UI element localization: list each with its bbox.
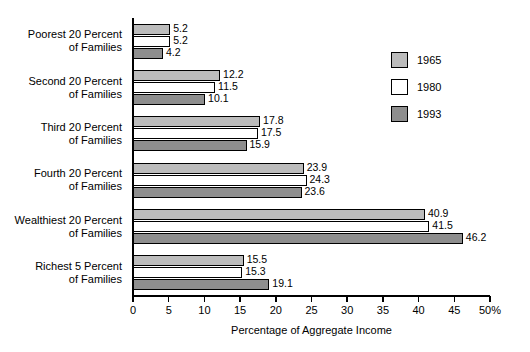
x-tick [382, 296, 384, 302]
bar-row: 46.2 [133, 233, 490, 244]
x-tick [132, 296, 134, 302]
category-label: Wealthiest 20 Percentof Families [0, 214, 122, 240]
bar-1980-4[interactable] [133, 175, 307, 186]
category-label-line: Richest 5 Percent [0, 260, 122, 273]
bar-group: 17.817.515.9 [133, 116, 490, 152]
x-tick-label: 10 [198, 304, 210, 317]
bar-group: 23.924.323.6 [133, 163, 490, 199]
bar-1993-3[interactable] [133, 140, 247, 151]
x-tick-label: 40 [412, 304, 424, 317]
bar-row: 5.2 [133, 36, 490, 47]
category-label-line: of Families [0, 273, 122, 286]
x-tick-label: 50% [479, 304, 501, 317]
bar-row: 41.5 [133, 221, 490, 232]
bar-1980-6[interactable] [133, 267, 242, 278]
category-label-line: Wealthiest 20 Percent [0, 214, 122, 227]
x-tick [346, 296, 348, 302]
legend-label: 1993 [417, 107, 441, 121]
bar-value-label: 23.6 [305, 185, 325, 198]
category-label-group: Poorest 20 Percentof FamiliesSecond 20 P… [0, 18, 128, 296]
x-tick-label: 35 [377, 304, 389, 317]
category-label-line: of Families [0, 227, 122, 240]
category-label-line: Fourth 20 Percent [0, 167, 122, 180]
category-label-line: of Families [0, 180, 122, 193]
category-label-line: Poorest 20 Percent [0, 28, 122, 41]
bar-value-label: 15.3 [245, 265, 265, 278]
bar-1993-4[interactable] [133, 187, 302, 198]
category-label: Poorest 20 Percentof Families [0, 28, 122, 54]
bar-1993-5[interactable] [133, 233, 463, 244]
x-tick-label: 20 [270, 304, 282, 317]
x-tick [239, 296, 241, 302]
bar-value-label: 4.2 [166, 46, 181, 59]
bar-value-label: 19.1 [272, 277, 292, 290]
bar-1965-5[interactable] [133, 209, 425, 220]
bar-row: 17.5 [133, 128, 490, 139]
bar-row: 23.6 [133, 187, 490, 198]
bar-value-label: 10.1 [208, 92, 228, 105]
x-tick [418, 296, 420, 302]
bar-1965-6[interactable] [133, 255, 244, 266]
bar-group: 40.941.546.2 [133, 209, 490, 245]
x-tick [489, 296, 491, 302]
bar-value-label: 41.5 [432, 219, 452, 232]
bar-chart: Poorest 20 Percentof FamiliesSecond 20 P… [0, 0, 530, 352]
category-label-line: Third 20 Percent [0, 121, 122, 134]
bar-1965-3[interactable] [133, 116, 260, 127]
category-label-line: of Families [0, 88, 122, 101]
bar-group: 15.515.319.1 [133, 255, 490, 291]
bar-1980-5[interactable] [133, 221, 429, 232]
bar-1993-1[interactable] [133, 48, 163, 59]
x-axis-title: Percentage of Aggregate Income [133, 324, 490, 336]
x-tick [311, 296, 313, 302]
bar-1993-6[interactable] [133, 279, 269, 290]
bar-value-label: 15.9 [250, 138, 270, 151]
legend-swatch-icon [391, 52, 408, 68]
x-tick [168, 296, 170, 302]
x-tick [454, 296, 456, 302]
bar-1980-3[interactable] [133, 128, 258, 139]
x-tick-label: 45 [448, 304, 460, 317]
category-label-line: of Families [0, 134, 122, 147]
bar-1965-1[interactable] [133, 24, 170, 35]
bar-1980-1[interactable] [133, 36, 170, 47]
bar-row: 10.1 [133, 94, 490, 105]
bar-value-label: 46.2 [466, 231, 486, 244]
legend-swatch-icon [391, 79, 408, 95]
bar-1980-2[interactable] [133, 82, 215, 93]
category-label: Richest 5 Percentof Families [0, 260, 122, 286]
bar-row: 15.9 [133, 140, 490, 151]
bar-1965-4[interactable] [133, 163, 304, 174]
bar-row: 19.1 [133, 279, 490, 290]
category-label-line: Second 20 Percent [0, 75, 122, 88]
category-label: Fourth 20 Percentof Families [0, 167, 122, 193]
legend-label: 1965 [417, 53, 441, 67]
legend-label: 1980 [417, 80, 441, 94]
x-tick [204, 296, 206, 302]
category-label: Second 20 Percentof Families [0, 75, 122, 101]
x-tick-label: 15 [234, 304, 246, 317]
x-tick-label: 30 [341, 304, 353, 317]
bar-row: 15.5 [133, 255, 490, 266]
bar-1993-2[interactable] [133, 94, 205, 105]
category-label: Third 20 Percentof Families [0, 121, 122, 147]
x-tick-label: 25 [305, 304, 317, 317]
legend-swatch-icon [391, 106, 408, 122]
bar-1965-2[interactable] [133, 70, 220, 81]
category-label-line: of Families [0, 41, 122, 54]
x-tick-label: 5 [166, 304, 172, 317]
x-tick [275, 296, 277, 302]
bar-row: 15.3 [133, 267, 490, 278]
x-tick-label: 0 [130, 304, 136, 317]
